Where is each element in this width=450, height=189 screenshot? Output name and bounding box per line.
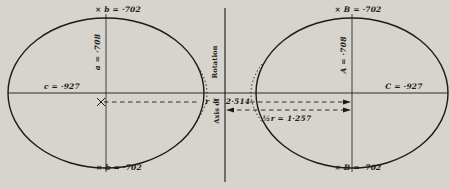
rotation-axis-label-upper: Rotation — [211, 45, 219, 78]
left-bottom-axis-label: × b = ·702 — [96, 163, 142, 172]
ellipsoids-of-rotation-diagram: × b = ·702 a = ·708 c = ·927 × b = ·702 … — [0, 0, 450, 189]
right-horizontal-axis-label: C = ·927 — [385, 82, 423, 91]
left-top-axis-label: × b = ·702 — [95, 5, 141, 14]
r-equals-label: r = — [205, 97, 218, 106]
right-vertical-axis-label: A = ·708 — [339, 36, 348, 75]
engraved-figure: × b = ·702 a = ·708 c = ·927 × b = ·702 … — [0, 0, 450, 189]
right-bottom-axis-label: × B = ·702 — [334, 163, 381, 172]
half-r-value-label: ½r = 1·257 — [263, 114, 312, 123]
r-value-label: 2·514 — [225, 97, 251, 106]
right-top-axis-label: × B = ·702 — [334, 5, 381, 14]
left-horizontal-axis-label: c = ·927 — [44, 82, 81, 91]
left-vertical-axis-label: a = ·708 — [93, 33, 102, 70]
